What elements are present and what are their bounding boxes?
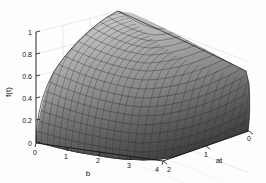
y-axis-label: at (216, 156, 223, 165)
x-tick-4: 4 (155, 166, 159, 173)
x-tick-1: 1 (64, 153, 68, 160)
z-tick-02: 0.2 (22, 117, 32, 124)
plot-canvas: 1 0.8 0.6 0.4 0.2 0 0 1 2 3 4 (0, 0, 266, 183)
y-tick-2: 2 (167, 166, 171, 173)
x-tick-3: 3 (127, 162, 131, 169)
surface-plot-figure: 1 0.8 0.6 0.4 0.2 0 0 1 2 3 4 (0, 0, 266, 183)
z-axis-label: f(t) (4, 87, 13, 97)
x-tick-0: 0 (33, 149, 37, 156)
z-tick-0: 0 (28, 140, 32, 147)
y-tick-0: 0 (247, 135, 251, 142)
y-tick-1: 1 (204, 151, 208, 158)
x-tick-2: 2 (96, 157, 100, 164)
z-tick-1: 1 (28, 29, 32, 36)
z-tick-08: 0.8 (22, 51, 32, 58)
z-tick-06: 0.6 (22, 73, 32, 80)
surface-mesh (0, 0, 266, 183)
z-axis-tick-labels: 1 0.8 0.6 0.4 0.2 0 (22, 29, 32, 147)
z-tick-04: 0.4 (22, 95, 32, 102)
x-axis-label: b (86, 169, 91, 178)
